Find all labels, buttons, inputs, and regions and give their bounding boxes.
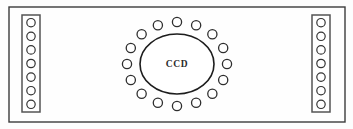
left-module-element: [27, 46, 35, 54]
right-module-element: [317, 87, 325, 95]
ccd-layout-diagram: CCD: [0, 0, 353, 129]
right-module-element: [317, 32, 325, 40]
right-module-element: [317, 59, 325, 67]
right-module-element: [317, 46, 325, 54]
ring-element: [208, 30, 217, 39]
ring-element: [153, 21, 162, 30]
ring-element: [137, 89, 146, 98]
ring-element: [172, 101, 181, 110]
left-module-element: [27, 87, 35, 95]
ccd-label: CCD: [166, 59, 188, 69]
ring-element: [192, 98, 201, 107]
left-module-element: [27, 59, 35, 67]
right-module-element: [317, 73, 325, 81]
ring-element: [137, 30, 146, 39]
ring-element: [219, 43, 228, 52]
diagram-canvas: CCD: [0, 0, 353, 129]
left-module-element: [27, 32, 35, 40]
ring-element: [222, 59, 231, 68]
left-module-element: [27, 100, 35, 108]
ring-element: [126, 75, 135, 84]
left-module-element: [27, 19, 35, 27]
ring-element: [208, 89, 217, 98]
ring-element: [122, 59, 131, 68]
right-module-element: [317, 19, 325, 27]
ring-element: [126, 43, 135, 52]
right-module-element: [317, 100, 325, 108]
ring-element: [219, 75, 228, 84]
ring-element: [172, 17, 181, 26]
ring-element: [153, 98, 162, 107]
left-module-element: [27, 73, 35, 81]
ring-element: [192, 21, 201, 30]
